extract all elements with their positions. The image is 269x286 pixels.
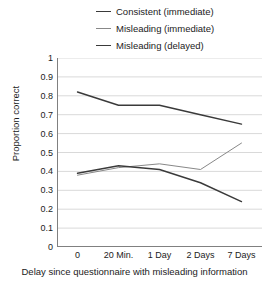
y-axis-tick-labels: 10.90.80.70.60.50.40.30.20.10	[26, 58, 53, 247]
legend-entry: Consistent (immediate)	[96, 3, 266, 20]
chart-legend: Consistent (immediate)Misleading (immedi…	[96, 3, 266, 54]
y-axis-tick-label: 0.6	[26, 129, 53, 138]
x-axis-tick-label: 7 Days	[216, 250, 268, 260]
legend-label: Misleading (immediate)	[116, 24, 214, 34]
y-axis-tick-label: 0.8	[26, 91, 53, 100]
y-axis-tick-label: 0.4	[26, 167, 53, 176]
y-axis-tick-label: 0.3	[26, 186, 53, 195]
legend-entry: Misleading (immediate)	[96, 20, 266, 37]
y-axis-title: Proportion correct	[10, 69, 21, 179]
y-axis-tick-label: 1	[26, 54, 53, 63]
series-line	[78, 92, 242, 124]
x-axis-tick-labels: 020 Min.1 Day2 Days7 Days	[57, 250, 262, 262]
legend-label: Consistent (immediate)	[116, 7, 214, 17]
legend-line-icon	[96, 45, 111, 46]
legend-entry: Misleading (delayed)	[96, 37, 266, 54]
x-axis-title: Delay since questionnaire with misleadin…	[0, 266, 269, 277]
y-axis-tick-label: 0.5	[26, 148, 53, 157]
line-chart: Consistent (immediate)Misleading (immedi…	[0, 0, 269, 286]
legend-line-icon	[96, 11, 111, 12]
legend-line-icon	[96, 28, 111, 29]
series-line	[78, 143, 242, 175]
legend-label: Misleading (delayed)	[116, 41, 204, 51]
plot-area	[57, 58, 262, 247]
plot-svg	[57, 58, 262, 247]
y-axis-tick-label: 0.1	[26, 224, 53, 233]
y-axis-tick-label: 0.9	[26, 72, 53, 81]
y-axis-tick-label: 0.2	[26, 205, 53, 214]
y-axis-tick-label: 0	[26, 243, 53, 252]
y-axis-tick-label: 0.7	[26, 110, 53, 119]
